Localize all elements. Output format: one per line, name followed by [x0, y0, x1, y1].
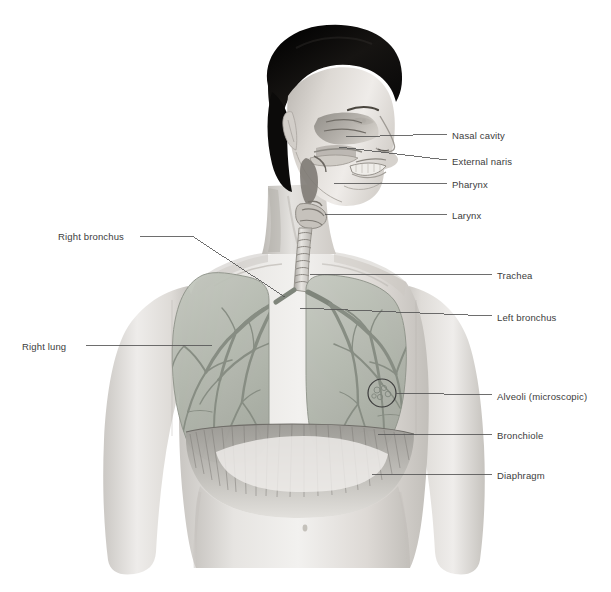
label-trachea: Trachea [497, 270, 533, 281]
label-left-bronchus: Left bronchus [497, 312, 557, 323]
nasal-cavity [314, 112, 379, 144]
label-right-bronchus: Right bronchus [58, 231, 124, 242]
respiratory-system-figure: Nasal cavity External naris Pharynx Lary… [0, 0, 611, 592]
label-alveoli: Alveoli (microscopic) [497, 391, 587, 402]
anatomy-illustration [0, 0, 611, 592]
label-right-lung: Right lung [22, 341, 66, 352]
label-bronchiole: Bronchiole [497, 430, 543, 441]
label-nasal-cavity: Nasal cavity [452, 130, 505, 141]
label-pharynx: Pharynx [452, 179, 488, 190]
label-diaphragm: Diaphragm [497, 470, 545, 481]
navel [303, 525, 308, 532]
label-larynx: Larynx [452, 210, 481, 221]
label-external-naris: External naris [452, 156, 512, 167]
